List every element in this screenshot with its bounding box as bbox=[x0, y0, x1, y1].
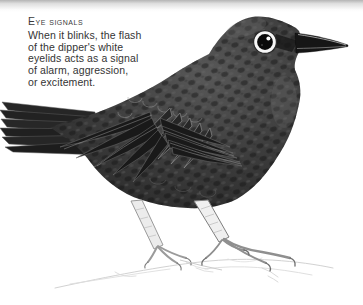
eye-highlight-small bbox=[261, 44, 263, 46]
eye-highlight bbox=[266, 37, 270, 41]
breast-highlight bbox=[271, 76, 297, 128]
eye bbox=[254, 31, 277, 54]
head bbox=[254, 31, 348, 54]
rock-sketch bbox=[55, 258, 333, 288]
beak bbox=[295, 33, 348, 53]
near-tarsus bbox=[194, 200, 229, 242]
dipper-illustration bbox=[0, 0, 363, 305]
book-page: Eye signals When it blinks, the flash of… bbox=[0, 0, 363, 305]
eye-pupil bbox=[257, 34, 273, 50]
far-tarsus bbox=[131, 200, 163, 249]
